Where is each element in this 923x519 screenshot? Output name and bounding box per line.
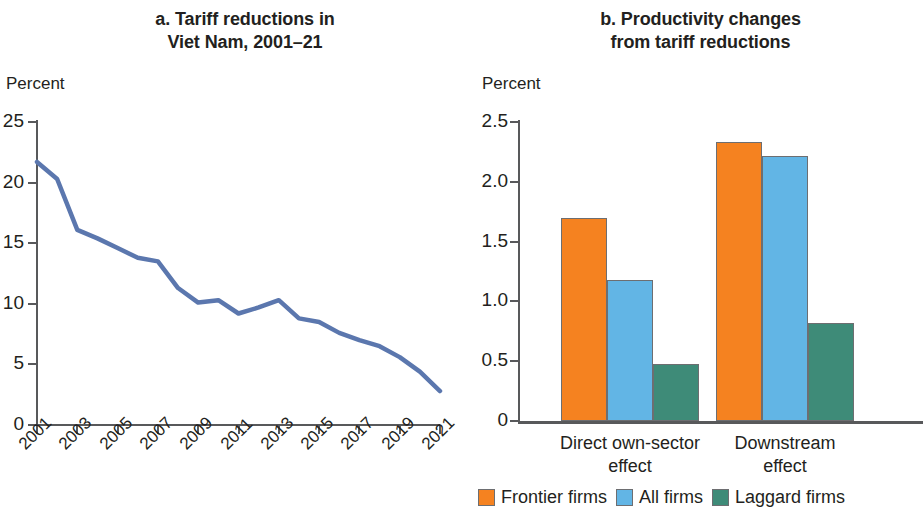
panel-b-y-tick bbox=[510, 121, 518, 123]
panel-b-y-tick bbox=[510, 360, 518, 362]
legend-label: Laggard firms bbox=[735, 487, 845, 508]
bar-all-firms-group-1 bbox=[607, 280, 653, 421]
bar-frontier-firms-group-1 bbox=[561, 218, 607, 421]
bar-frontier-firms-group-2 bbox=[716, 142, 762, 421]
panel-b-bars bbox=[520, 122, 920, 421]
legend-item-frontier-firms[interactable]: Frontier firms bbox=[478, 487, 607, 508]
legend-swatch-icon bbox=[712, 489, 729, 506]
legend-label: All firms bbox=[639, 487, 703, 508]
panel-b-y-tick-label: 2.0 bbox=[464, 171, 508, 190]
panel-b-group-label: Downstreameffect bbox=[685, 432, 885, 477]
panel-b-bar-chart: b. Productivity changes from tariff redu… bbox=[470, 0, 923, 519]
panel-b-y-tick bbox=[510, 420, 518, 422]
panel-b-axis-unit: Percent bbox=[482, 74, 541, 94]
panel-b-y-tick bbox=[510, 300, 518, 302]
two-panel-figure: a. Tariff reductions in Viet Nam, 2001–2… bbox=[0, 0, 923, 519]
legend-item-all-firms[interactable]: All firms bbox=[616, 487, 703, 508]
bar-laggard-firms-group-2 bbox=[808, 323, 854, 421]
panel-b-title-line2: from tariff reductions bbox=[478, 31, 923, 54]
legend-label: Frontier firms bbox=[501, 487, 607, 508]
panel-b-y-tick-label: 1.5 bbox=[464, 231, 508, 250]
panel-a-series-line bbox=[0, 0, 470, 519]
panel-b-y-tick bbox=[510, 181, 518, 183]
legend-swatch-icon bbox=[616, 489, 633, 506]
panel-a-line-chart: a. Tariff reductions in Viet Nam, 2001–2… bbox=[0, 0, 470, 519]
panel-b-y-tick-label: 1.0 bbox=[464, 290, 508, 309]
panel-b-x-axis-line bbox=[518, 421, 923, 424]
panel-b-title: b. Productivity changes from tariff redu… bbox=[470, 8, 923, 54]
panel-b-legend: Frontier firmsAll firmsLaggard firms bbox=[478, 487, 845, 508]
bar-all-firms-group-2 bbox=[762, 156, 808, 422]
legend-item-laggard-firms[interactable]: Laggard firms bbox=[712, 487, 845, 508]
legend-swatch-icon bbox=[478, 489, 495, 506]
panel-b-group-label-line2: effect bbox=[685, 455, 885, 478]
bar-laggard-firms-group-1 bbox=[653, 364, 699, 421]
panel-b-y-tick-label: 2.5 bbox=[464, 111, 508, 130]
panel-b-y-tick bbox=[510, 241, 518, 243]
panel-b-y-tick-label: 0.5 bbox=[464, 350, 508, 369]
panel-b-group-label-line1: Downstream bbox=[685, 432, 885, 455]
panel-b-y-tick-label: 0 bbox=[464, 410, 508, 429]
panel-b-title-line1: b. Productivity changes bbox=[478, 8, 923, 31]
